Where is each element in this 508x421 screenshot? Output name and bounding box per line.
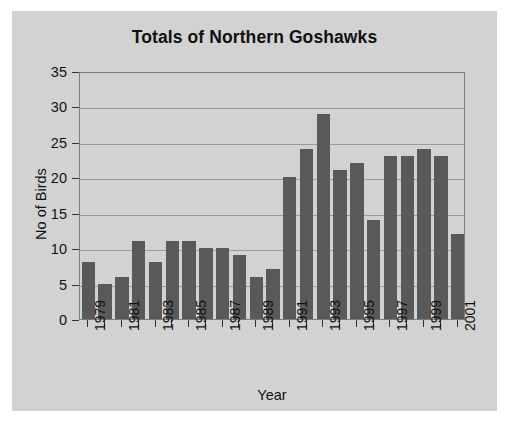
x-tick [423, 320, 424, 327]
y-tick-label: 25 [27, 135, 67, 151]
y-tick [72, 320, 79, 321]
y-tick [72, 143, 79, 144]
x-tick [289, 320, 290, 327]
x-tick-label: 1985 [193, 300, 209, 331]
bar [417, 149, 430, 319]
y-tick [72, 285, 79, 286]
bar [333, 170, 346, 319]
bar [384, 156, 397, 319]
y-tick-label: 15 [27, 206, 67, 222]
y-tick [72, 249, 79, 250]
x-tick-label: 1997 [394, 300, 410, 331]
x-tick-label: 1995 [361, 300, 377, 331]
chart-figure: Totals of Northern Goshawks No of Birds … [12, 11, 497, 411]
bar-series [80, 73, 464, 319]
y-tick [72, 107, 79, 108]
y-tick-label: 10 [27, 241, 67, 257]
x-tick [255, 320, 256, 327]
y-tick-label: 30 [27, 99, 67, 115]
bar [317, 114, 330, 319]
y-tick-label: 0 [27, 312, 67, 328]
bar [401, 156, 414, 319]
x-tick [356, 320, 357, 327]
x-tick-label: 1981 [126, 300, 142, 331]
y-tick [72, 72, 79, 73]
y-tick-label: 35 [27, 64, 67, 80]
x-tick [322, 320, 323, 327]
x-tick-label: 1999 [428, 300, 444, 331]
bar [350, 163, 363, 319]
x-tick-label: 1983 [160, 300, 176, 331]
bar [434, 156, 447, 319]
x-tick-label: 1989 [260, 300, 276, 331]
x-tick-label: 1987 [227, 300, 243, 331]
x-axis-title: Year [79, 387, 465, 403]
x-tick-label: 2001 [462, 300, 478, 331]
x-tick-label: 1979 [92, 300, 108, 331]
x-tick [188, 320, 189, 327]
x-tick-label: 1991 [294, 300, 310, 331]
plot-area [79, 72, 465, 320]
x-tick [222, 320, 223, 327]
bar [300, 149, 313, 319]
y-tick [72, 178, 79, 179]
x-tick [389, 320, 390, 327]
x-tick [121, 320, 122, 327]
y-tick [72, 214, 79, 215]
x-tick [87, 320, 88, 327]
x-tick-label: 1993 [327, 300, 343, 331]
x-tick [155, 320, 156, 327]
x-tick [457, 320, 458, 327]
y-tick-label: 5 [27, 277, 67, 293]
y-tick-label: 20 [27, 170, 67, 186]
chart-title: Totals of Northern Goshawks [12, 27, 497, 48]
bar [283, 177, 296, 319]
